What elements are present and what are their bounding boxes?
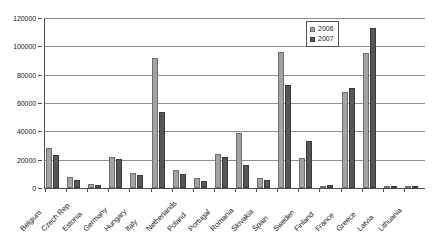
bar [391,186,397,188]
y-tick-label: 100000 [13,43,36,50]
bar-group [277,18,298,188]
bar [215,154,221,188]
y-tick-label: 0 [32,185,36,192]
y-tick-mark [38,18,42,19]
x-tick-label: Portugal [187,208,213,234]
bar [405,186,411,188]
bar [222,157,228,188]
bar [299,158,305,188]
bar [285,85,291,188]
bar [370,28,376,188]
legend-swatch-2006 [310,27,315,32]
bar-group [108,18,129,188]
y-axis: 020000400006000080000100000120000 [0,18,42,189]
legend-item-2006: 2006 [310,24,334,34]
y-tick-label: 60000 [17,100,36,107]
y-tick-mark [38,46,42,47]
y-tick-label: 80000 [17,71,36,78]
x-tick-label: Greece [334,210,357,233]
bar [67,177,73,188]
bar [236,133,242,188]
bar-group [362,18,383,188]
x-tick-label: Lithuania [377,206,404,233]
bar-group [129,18,150,188]
bar [257,178,263,188]
bar-group [404,18,425,188]
legend-label-2006: 2006 [318,25,334,33]
bar [152,58,158,188]
bar [349,88,355,188]
y-tick-mark [38,188,42,189]
x-tick-label: Sweden [271,208,296,233]
bar-group [151,18,172,188]
bar [180,174,186,188]
bar [264,180,270,188]
legend-item-2007: 2007 [310,34,334,44]
x-tick-label: Spain [250,214,270,234]
bar [306,141,312,188]
bar-group [66,18,87,188]
bar-group [383,18,404,188]
x-tick-label: Belgium [18,208,43,233]
bar-chart: 020000400006000080000100000120000 Belgiu… [0,0,442,250]
x-tick-label: Italy [123,217,139,233]
x-tick-label: France [313,211,335,233]
x-axis: BelgiumCzech RepEstoniaGermanyHungaryIta… [44,190,425,250]
bar-group [172,18,193,188]
bar [243,165,249,188]
bar [74,180,80,188]
legend-label-2007: 2007 [318,35,334,43]
y-tick-mark [38,131,42,132]
bar [116,159,122,188]
y-tick-mark [38,103,42,104]
bars-layer [45,18,425,188]
bar [95,185,101,188]
bar [342,92,348,188]
x-tick-label: Latvia [356,213,376,233]
bar-group [235,18,256,188]
bar [88,184,94,188]
bar [327,185,333,188]
bar [53,155,59,188]
bar [137,175,143,188]
plot-area [44,18,425,189]
bar [384,186,390,188]
bar [363,53,369,188]
y-tick-label: 20000 [17,156,36,163]
bar [412,186,418,188]
bar [109,157,115,188]
bar-group [214,18,235,188]
bar-group [193,18,214,188]
bar [201,181,207,188]
bar [320,186,326,188]
bar [159,112,165,189]
bar [46,148,52,188]
bar-group [256,18,277,188]
bar-group [87,18,108,188]
legend-swatch-2007 [310,37,315,42]
bar [278,52,284,188]
y-tick-label: 40000 [17,128,36,135]
bar [130,173,136,188]
y-tick-mark [38,75,42,76]
bar [173,170,179,188]
y-tick-mark [38,160,42,161]
bar [194,178,200,188]
chart-legend: 2006 2007 [306,21,339,47]
y-tick-label: 120000 [13,15,36,22]
bar-group [45,18,66,188]
bar-group [341,18,362,188]
